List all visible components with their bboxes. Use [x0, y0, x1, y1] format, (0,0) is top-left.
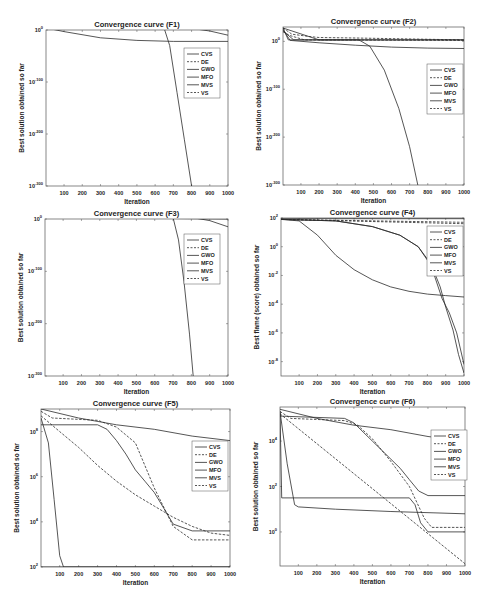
y-tick-label: 10-100 — [28, 266, 43, 274]
x-tick-label: 900 — [441, 380, 450, 386]
legend: CVSDEGWOMFOMVSVS — [431, 430, 467, 480]
legend-entry-cvs: CVS — [201, 237, 213, 243]
legend: CVSDEGWOMFOMVSVS — [427, 226, 463, 276]
chart-panel-f5: Convergence curve (F5)100200300400500600… — [13, 399, 236, 586]
x-tick-label: 1000 — [459, 570, 471, 576]
x-tick-label: 200 — [78, 190, 87, 196]
y-tick-label: 10-2 — [268, 270, 278, 278]
x-tick-label: 300 — [331, 380, 340, 386]
chart-panel-f2: Convergence curve (F2)100200300400500600… — [255, 17, 470, 204]
x-tick-label: 600 — [387, 189, 396, 195]
x-tick-label: 700 — [169, 190, 178, 196]
x-tick-label: 1000 — [458, 189, 470, 195]
chart-title: Convergence curve (F6) — [330, 397, 416, 406]
chart-panel-f3: Convergence curve (F3)100200300400500600… — [17, 209, 234, 395]
y-tick-label: 104 — [269, 436, 278, 444]
legend-entry-mvs: MVS — [201, 268, 213, 274]
y-tick-label: 10-300 — [28, 371, 43, 379]
x-tick-label: 500 — [368, 570, 377, 576]
x-tick-label: 300 — [331, 570, 340, 576]
x-tick-label: 1000 — [458, 380, 470, 386]
legend-entry-mfo: MFO — [201, 260, 214, 266]
y-tick-label: 10-100 — [29, 77, 44, 85]
x-tick-label: 900 — [442, 570, 451, 576]
x-tick-label: 200 — [74, 571, 83, 577]
x-tick-label: 800 — [188, 571, 197, 577]
chart-title: Convergence curve (F1) — [94, 20, 180, 29]
x-tick-label: 800 — [187, 190, 196, 196]
y-tick-label: 10-200 — [266, 132, 281, 140]
y-axis-label: Best solution obtained so far — [17, 252, 24, 342]
x-tick-label: 500 — [131, 571, 140, 577]
x-tick-label: 300 — [95, 380, 104, 386]
y-tick-label: 108 — [30, 427, 39, 435]
x-axis-label: Iteration — [361, 197, 387, 204]
legend: CVSDEGWOMFOMVSVS — [184, 48, 220, 98]
y-tick-label: 10-8 — [268, 357, 278, 365]
y-tick-label: 100 — [34, 214, 43, 222]
convergence-figure: Convergence curve (F1)100200300400500600… — [0, 0, 488, 600]
y-tick-label: 102 — [269, 482, 278, 490]
legend-entry-cvs: CVS — [448, 433, 460, 439]
legend-entry-mvs: MVS — [444, 98, 456, 104]
x-tick-label: 1000 — [224, 571, 236, 577]
x-tick-label: 700 — [405, 189, 414, 195]
legend-entry-cvs: CVS — [201, 51, 213, 57]
y-tick-label: 102 — [30, 562, 39, 570]
x-axis-label: Iteration — [360, 578, 386, 585]
legend-entry-vs: VS — [444, 106, 452, 112]
y-tick-label: 10-4 — [268, 299, 278, 307]
x-tick-label: 600 — [386, 570, 395, 576]
x-tick-label: 600 — [150, 380, 159, 386]
x-tick-label: 1000 — [222, 380, 234, 386]
legend-entry-mvs: MVS — [448, 464, 460, 470]
legend-entry-cvs: CVS — [444, 67, 456, 73]
x-tick-label: 400 — [113, 380, 122, 386]
legend-entry-mfo: MFO — [209, 467, 222, 473]
x-tick-label: 500 — [369, 189, 378, 195]
legend-entry-vs: VS — [201, 276, 209, 282]
legend-entry-de: DE — [448, 441, 456, 447]
x-tick-label: 200 — [313, 380, 322, 386]
chart-panel-f1: Convergence curve (F1)100200300400500600… — [18, 20, 234, 205]
chart-panel-f6: Convergence curve (F6)100200300400500600… — [252, 397, 471, 585]
x-tick-label: 300 — [96, 190, 105, 196]
x-tick-label: 700 — [405, 570, 414, 576]
x-tick-label: 800 — [187, 380, 196, 386]
legend-entry-gwo: GWO — [209, 459, 223, 465]
legend-entry-mvs: MVS — [201, 82, 213, 88]
x-axis-label: Iteration — [124, 198, 150, 205]
x-tick-label: 500 — [132, 190, 141, 196]
legend: CVSDEGWOMFOMVSVS — [192, 441, 228, 491]
x-tick-label: 300 — [93, 571, 102, 577]
x-tick-label: 900 — [205, 190, 214, 196]
y-tick-label: 10-300 — [266, 180, 281, 188]
chart-title: Convergence curve (F3) — [94, 209, 180, 218]
legend-entry-gwo: GWO — [201, 252, 215, 258]
x-tick-label: 400 — [351, 189, 360, 195]
chart-title: Convergence curve (F4) — [330, 208, 416, 217]
x-tick-label: 800 — [423, 189, 432, 195]
y-tick-label: 100 — [272, 36, 281, 44]
legend-entry-mfo: MFO — [444, 90, 457, 96]
y-axis-label: Best solution obtained so far — [252, 441, 259, 531]
x-tick-label: 600 — [150, 571, 159, 577]
legend-entry-mvs: MVS — [209, 475, 221, 481]
x-tick-label: 500 — [132, 380, 141, 386]
legend-entry-gwo: GWO — [444, 82, 458, 88]
legend-entry-mfo: MFO — [444, 252, 457, 258]
x-tick-label: 200 — [77, 380, 86, 386]
x-tick-label: 700 — [169, 571, 178, 577]
x-tick-label: 700 — [168, 380, 177, 386]
chart-title: Convergence curve (F2) — [331, 17, 417, 26]
y-axis-label: Best flame (score) obtained so far — [253, 244, 261, 349]
x-axis-label: Iteration — [123, 579, 149, 586]
legend-entry-de: DE — [201, 245, 209, 251]
legend-entry-cvs: CVS — [444, 229, 456, 235]
x-axis-label: Iteration — [360, 388, 386, 395]
x-tick-label: 300 — [333, 189, 342, 195]
x-tick-label: 900 — [205, 380, 214, 386]
legend-entry-cvs: CVS — [209, 444, 221, 450]
x-tick-label: 900 — [441, 189, 450, 195]
x-tick-label: 800 — [423, 570, 432, 576]
